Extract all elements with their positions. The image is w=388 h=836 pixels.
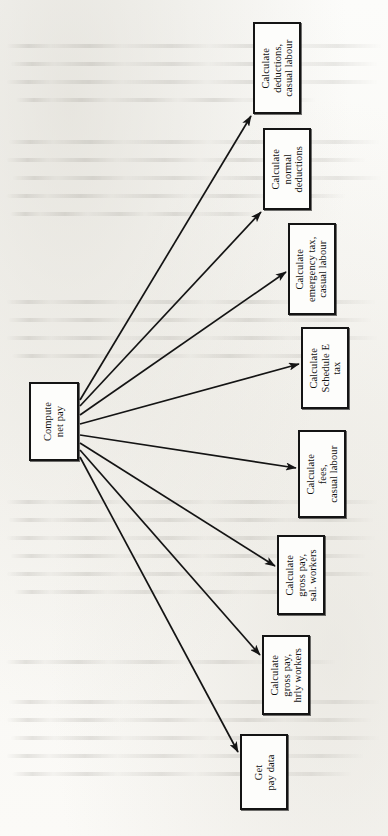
process-box-calculate-deductions-casual-labour[interactable]: Calculatedeductions,casual labour — [253, 22, 301, 114]
process-box-label: Computenet pay — [42, 402, 65, 441]
arrow-compute-net-pay-to-calculate-gross-pay-sal-workers — [80, 443, 275, 566]
process-box-calculate-schedule-e-tax[interactable]: CalculateSchedule Etax — [301, 327, 349, 409]
process-box-get-pay-data[interactable]: Getpay data — [240, 734, 288, 810]
process-box-label: Getpay data — [252, 754, 275, 790]
process-box-label: Calculategross pay,hrly workers — [269, 648, 304, 703]
process-box-label: Calculatenormaldeductions — [270, 146, 305, 193]
process-box-label: Calculatefees,casual labour — [305, 446, 340, 503]
process-box-calculate-gross-pay-sal-workers[interactable]: Calculategross pay,sal. workers — [277, 535, 325, 615]
process-box-compute-net-pay[interactable]: Computenet pay — [29, 382, 79, 461]
process-box-label: Calculategross pay,sal. workers — [284, 549, 319, 601]
process-box-label: Calculateemergency tax,casual labour — [295, 236, 330, 301]
process-box-label: CalculateSchedule Etax — [308, 344, 343, 393]
process-box-calculate-gross-pay-hrly-workers[interactable]: Calculategross pay,hrly workers — [262, 635, 310, 715]
structure-chart: Computenet pay Calculatedeductions,casua… — [0, 0, 388, 836]
arrow-compute-net-pay-to-get-pay-data — [80, 457, 238, 752]
process-box-calculate-fees-casual-labour[interactable]: Calculatefees,casual labour — [298, 430, 346, 518]
process-box-label: Calculatedeductions,casual labour — [260, 40, 295, 97]
process-box-calculate-emergency-tax-casual-labour[interactable]: Calculateemergency tax,casual labour — [288, 223, 336, 315]
process-box-calculate-normal-deductions[interactable]: Calculatenormaldeductions — [263, 128, 311, 210]
arrow-compute-net-pay-to-calculate-emergency-tax-casual-labour — [80, 272, 286, 415]
arrow-compute-net-pay-to-calculate-schedule-e-tax — [80, 364, 299, 424]
arrow-compute-net-pay-to-calculate-deductions-casual-labour — [80, 116, 251, 400]
